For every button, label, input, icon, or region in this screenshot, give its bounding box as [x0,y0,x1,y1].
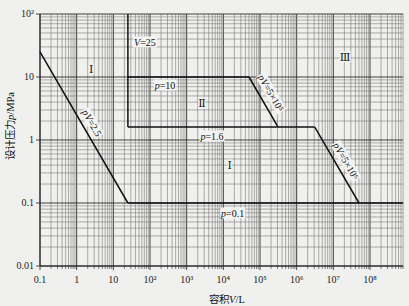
y-tick-label: 1 [29,135,34,145]
x-tick-label: 10⁵ [253,275,267,285]
y-tick-label: 0.01 [17,261,35,271]
region-3-label: Ⅲ [340,51,351,62]
x-tick-label: 10³ [180,275,193,285]
x-tick-label: 10⁷ [327,275,341,285]
p-1-6-label: p=1.6 [199,130,224,141]
region-2-label: Ⅱ [198,97,205,108]
y-axis-title: 设计压力p/MPa [2,92,17,160]
y-tick-label: 0.1 [22,198,35,208]
p-0-1-label: p=0.1 [220,208,245,219]
region-1-lower-label: Ⅰ [228,160,232,171]
v-25-label: V=25 [133,36,157,47]
p-10-label: p=10 [154,79,177,90]
x-tick-label: 1 [74,275,79,285]
x-axis-title: 容积V/L [209,291,245,306]
x-tick-label: 0.1 [34,275,47,285]
y-tick-label: 10 [24,72,34,82]
x-tick-label: 10² [144,275,157,285]
x-tick-label: 10⁸ [363,275,377,285]
x-tick-label: 10 [108,275,118,285]
boundary-line-pV=2.5 [40,52,128,203]
x-tick-label: 10⁶ [290,275,304,285]
region-1-upper-label: Ⅰ [89,63,93,74]
x-tick-label: 10⁴ [217,275,231,285]
pressure-volume-chart: 0.111010²10³10⁴10⁵10⁶10⁷10⁸0.010.111010²… [0,0,409,306]
y-tick-label: 10² [21,9,34,19]
